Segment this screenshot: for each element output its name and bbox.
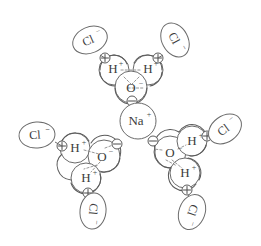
atom-sup-h: + bbox=[82, 138, 87, 147]
atom-label-h: H bbox=[81, 170, 90, 185]
atom-sup-o: − bbox=[109, 147, 114, 156]
chloride-ion-right: Cl − bbox=[203, 108, 247, 150]
atom-label-h: H bbox=[180, 165, 189, 180]
atom-sup-o: − bbox=[178, 144, 183, 153]
atom-label-h: H bbox=[143, 61, 152, 76]
atom-sup-o: − bbox=[139, 79, 144, 88]
atom-label-o: O bbox=[97, 149, 106, 164]
chloride-label: Cl bbox=[86, 203, 101, 216]
atom-label-o: O bbox=[165, 145, 174, 160]
atom-label-h: H bbox=[108, 61, 117, 76]
atom-sup-h2: + bbox=[192, 163, 197, 172]
sodium-label: Na bbox=[128, 113, 143, 128]
hydration-diagram: H + H + O − Cl − bbox=[0, 0, 261, 246]
chloride-ion-bottom-right: Cl − bbox=[174, 191, 211, 234]
atom-label-o: O bbox=[126, 80, 135, 95]
water-molecule-bottom-right: O − H + H + bbox=[154, 124, 207, 190]
chloride-label: Cl bbox=[29, 127, 42, 142]
partial-charge-positive-bottom-right-h2 bbox=[182, 185, 192, 195]
sodium-charge: + bbox=[147, 110, 152, 119]
sodium-ion: Na + bbox=[120, 103, 156, 139]
partial-charge-negative-bottom-right-oxygen bbox=[148, 136, 158, 146]
diagram-canvas: H + H + O − Cl − bbox=[0, 0, 261, 246]
atom-label-h: H bbox=[70, 140, 79, 155]
atom-sup-h2: + bbox=[93, 168, 98, 177]
chloride-ion-bottom-left: Cl − bbox=[78, 192, 108, 231]
atom-sup-h-left: + bbox=[119, 59, 124, 68]
partial-charge-negative-bottom-left-oxygen bbox=[112, 139, 122, 149]
atom-label-h: H bbox=[187, 133, 196, 148]
chloride-ion-left: Cl − bbox=[18, 121, 56, 149]
water-molecule-bottom-left: H + O − H + bbox=[57, 133, 121, 194]
